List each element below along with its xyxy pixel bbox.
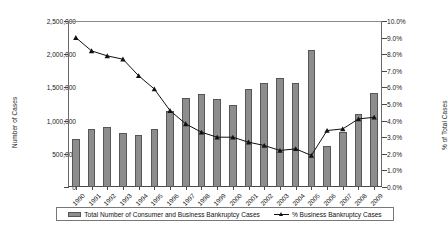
bar-2008 [355, 114, 363, 187]
right-tick-label: 9.0% [387, 34, 402, 41]
x-tick-mark [233, 187, 234, 190]
x-tick-mark [374, 187, 375, 190]
legend-item-line-label: % Business Bankruptcy Cases [292, 211, 382, 218]
x-tick-mark [296, 187, 297, 190]
x-tick-mark [358, 187, 359, 190]
right-tick-label: 2.0% [387, 150, 402, 157]
right-tick-label: 3.0% [387, 134, 402, 141]
legend-item-line: % Business Bankruptcy Cases [274, 211, 382, 218]
x-tick-mark [264, 187, 265, 190]
right-tick-mark [382, 87, 387, 88]
right-tick-mark [382, 154, 387, 155]
x-tick-mark [186, 187, 187, 190]
x-tick-mark [76, 187, 77, 190]
bankruptcy-cases-chart: Number of Cases % of Total Cases 0500,00… [0, 0, 448, 227]
legend-item-bars-label: Total Number of Consumer and Business Ba… [84, 211, 260, 218]
legend-item-bars: Total Number of Consumer and Business Ba… [68, 211, 260, 218]
x-tick-mark [92, 187, 93, 190]
x-tick-mark [154, 187, 155, 190]
bar-1997 [182, 98, 190, 187]
bar-1990 [72, 139, 80, 187]
left-axis-title: Number of Cases [11, 97, 18, 148]
bar-1998 [198, 94, 206, 187]
chart-legend: Total Number of Consumer and Business Ba… [56, 207, 394, 221]
right-tick-mark [382, 170, 387, 171]
x-tick-mark [201, 187, 202, 190]
plot-area [68, 21, 382, 187]
bar-2002 [260, 83, 268, 187]
x-tick-mark [107, 187, 108, 190]
bar-2007 [339, 132, 347, 187]
right-tick-label: 0.0% [387, 184, 402, 191]
bar-1994 [135, 135, 143, 187]
x-tick-mark [170, 187, 171, 190]
right-tick-mark [382, 104, 387, 105]
left-tick-mark [64, 187, 69, 188]
bar-2006 [323, 146, 331, 187]
bar-1993 [119, 133, 127, 187]
right-tick-mark [382, 54, 387, 55]
bar-1996 [166, 111, 174, 187]
right-tick-label: 8.0% [387, 51, 402, 58]
right-tick-label: 6.0% [387, 84, 402, 91]
bar-2003 [276, 78, 284, 187]
bar-2009 [370, 93, 378, 187]
right-tick-mark [382, 71, 387, 72]
right-tick-label: 5.0% [387, 101, 402, 108]
bar-2005 [308, 50, 316, 187]
x-tick-mark [327, 187, 328, 190]
right-tick-mark [382, 21, 387, 22]
bar-1992 [103, 127, 111, 187]
x-tick-mark [123, 187, 124, 190]
x-tick-mark [217, 187, 218, 190]
right-tick-mark [382, 38, 387, 39]
bar-1995 [151, 129, 159, 187]
bar-1999 [213, 99, 221, 187]
bar-2001 [245, 89, 253, 187]
bar-1991 [88, 129, 96, 187]
right-tick-mark [382, 137, 387, 138]
right-tick-mark [382, 121, 387, 122]
bar-2004 [292, 83, 300, 187]
x-tick-mark [280, 187, 281, 190]
x-tick-mark [249, 187, 250, 190]
bar-swatch-icon [68, 212, 81, 217]
x-tick-mark [343, 187, 344, 190]
x-tick-mark [311, 187, 312, 190]
bar-2000 [229, 105, 237, 187]
right-tick-label: 1.0% [387, 167, 402, 174]
line-triangle-swatch-icon [274, 211, 289, 217]
right-tick-label: 4.0% [387, 117, 402, 124]
right-tick-mark [382, 187, 387, 188]
right-tick-label: 10.0% [387, 18, 406, 25]
x-tick-mark [139, 187, 140, 190]
right-tick-label: 7.0% [387, 67, 402, 74]
right-axis-title: % of Total Cases [441, 101, 448, 150]
